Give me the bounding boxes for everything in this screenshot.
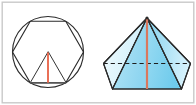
geometry-diagram-svg	[0, 0, 196, 105]
left-panel-circle-hexagon	[13, 17, 84, 88]
geometry-figure-canvas	[0, 0, 196, 105]
right-panel-hexagonal-pyramid	[104, 16, 191, 89]
pyramid-apex-point	[145, 16, 148, 19]
